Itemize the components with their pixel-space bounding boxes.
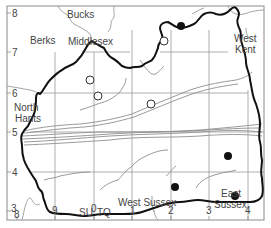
y-tick-5: 5: [12, 127, 18, 138]
record-point-open: [160, 37, 168, 45]
distribution-map: Bucks Berks Middlesex West Kent North Ha…: [0, 0, 271, 228]
label-north-hants-1: North: [14, 102, 38, 113]
label-west-kent-1: West: [234, 33, 257, 44]
label-east-sussex-2: Sussex: [214, 199, 247, 210]
x-tick-3: 3: [206, 205, 212, 216]
x-tick-1: 1: [130, 205, 136, 216]
label-north-hants-2: Hants: [15, 113, 41, 124]
y-tick-7: 7: [12, 47, 18, 58]
record-point-open: [147, 100, 155, 108]
y-tick-6: 6: [12, 88, 18, 99]
record-point-filled: [177, 22, 185, 30]
record-point-filled: [224, 152, 232, 160]
label-west-kent-2: Kent: [235, 44, 256, 55]
y-tick-4: 4: [12, 167, 18, 178]
x-tick-9: 9: [52, 205, 58, 216]
x-tick-8: 8: [14, 209, 20, 220]
label-bucks: Bucks: [67, 9, 94, 20]
label-east-sussex-1: East: [221, 188, 241, 199]
x-tick-4: 4: [245, 205, 251, 216]
label-berks: Berks: [30, 35, 56, 46]
y-tick-8: 8: [12, 8, 18, 19]
record-point-open: [94, 92, 102, 100]
x-tick-2: 2: [168, 205, 174, 216]
record-point-open: [86, 76, 94, 84]
record-point-filled: [171, 183, 179, 191]
grid-square-tq: TQ: [97, 207, 111, 218]
label-middlesex: Middlesex: [68, 36, 113, 47]
